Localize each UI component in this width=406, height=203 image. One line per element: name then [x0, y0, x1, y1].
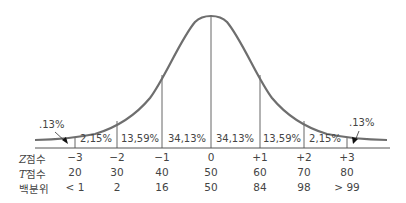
- band-label: 34,13%: [213, 133, 257, 144]
- t-value: 30: [97, 166, 137, 178]
- sd-lines: [75, 15, 347, 148]
- t-value: 60: [240, 166, 280, 178]
- band-label: 13,59%: [118, 133, 162, 144]
- percentile-value: 16: [142, 181, 182, 193]
- t-score-row-label: T점수: [19, 166, 46, 181]
- t-value: 80: [327, 166, 367, 178]
- left-tail-label: .13%: [39, 119, 64, 130]
- band-label: 13,59%: [260, 133, 304, 144]
- percentile-value: 84: [240, 181, 280, 193]
- z-value: −3: [55, 151, 95, 163]
- t-value: 70: [284, 166, 324, 178]
- t-value: 50: [191, 166, 231, 178]
- right-tail-label: .13%: [349, 117, 374, 128]
- band-label: 2,15%: [74, 133, 118, 144]
- z-value: +3: [327, 151, 367, 163]
- z-score-row-label: Z점수: [19, 151, 46, 166]
- percentile-row-label: 백분위: [19, 181, 49, 196]
- t-value: 20: [55, 166, 95, 178]
- percentile-value: 50: [191, 181, 231, 193]
- percentile-value: < 1: [55, 181, 95, 193]
- percentile-value: > 99: [327, 181, 367, 193]
- percentile-value: 98: [284, 181, 324, 193]
- percentile-value: 2: [97, 181, 137, 193]
- band-label: 34,13%: [165, 133, 209, 144]
- z-value: −2: [97, 151, 137, 163]
- t-value: 40: [142, 166, 182, 178]
- z-value: +1: [240, 151, 280, 163]
- z-value: 0: [191, 151, 231, 163]
- z-value: +2: [284, 151, 324, 163]
- z-value: −1: [142, 151, 182, 163]
- band-label: 2,15%: [303, 133, 347, 144]
